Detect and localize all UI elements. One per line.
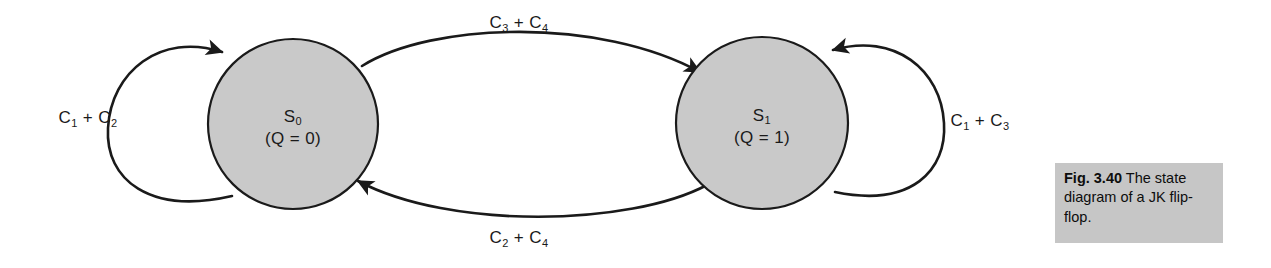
self-loop-s1-path xyxy=(833,45,944,195)
state-node-s0[interactable]: S0 (Q = 0) xyxy=(208,39,378,209)
self-loop-s0-label-sub2: 2 xyxy=(111,117,118,129)
transition-s1-to-s0: C2 + C4 xyxy=(358,181,707,249)
figure-page: C1 + C2 C3 + C4 C2 + C4 C1 + C3 xyxy=(0,0,1271,268)
self-loop-s0-label-mid: + C xyxy=(78,108,111,127)
transition-self-loop-s1: C1 + C3 xyxy=(833,45,1010,195)
self-loop-s1-label: C1 + C3 xyxy=(950,111,1009,132)
s1-to-s0-path xyxy=(358,181,707,217)
state-s1-condition: (Q = 1) xyxy=(734,128,790,147)
s1-to-s0-label-c1: C xyxy=(489,228,502,247)
s0-to-s1-label-c1: C xyxy=(489,13,502,32)
state-s0-name-subscript: 0 xyxy=(296,115,303,127)
s0-to-s1-label: C3 + C4 xyxy=(489,13,548,34)
state-s0-name-letter: S xyxy=(284,107,296,126)
state-node-s1[interactable]: S1 (Q = 1) xyxy=(676,37,848,209)
state-s1-name-letter: S xyxy=(753,106,765,125)
self-loop-s1-label-mid: + C xyxy=(970,111,1003,130)
s0-to-s1-path xyxy=(362,32,700,72)
transition-s0-to-s1: C3 + C4 xyxy=(362,13,700,72)
figure-caption-number: Fig. 3.40 xyxy=(1064,170,1122,186)
self-loop-s0-label-c1: C xyxy=(58,108,71,127)
s1-to-s0-label-sub2: 4 xyxy=(542,237,549,249)
transition-self-loop-s0: C1 + C2 xyxy=(58,47,232,201)
s0-to-s1-label-mid: + C xyxy=(509,13,542,32)
s0-to-s1-label-sub2: 4 xyxy=(542,22,549,34)
s1-to-s0-label: C2 + C4 xyxy=(489,228,548,249)
self-loop-s0-label: C1 + C2 xyxy=(58,108,117,129)
s1-to-s0-label-mid: + C xyxy=(509,228,542,247)
self-loop-s1-label-c1: C xyxy=(950,111,963,130)
self-loop-s1-label-sub2: 3 xyxy=(1003,120,1010,132)
state-s1-name-subscript: 1 xyxy=(765,114,772,126)
state-s0-condition: (Q = 0) xyxy=(265,129,321,148)
figure-caption: Fig. 3.40 The state diagram of a JK flip… xyxy=(1055,163,1223,243)
